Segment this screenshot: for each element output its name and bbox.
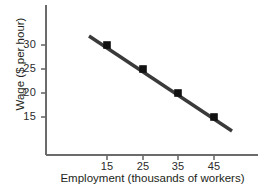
x-tick-label-35: 35 — [166, 160, 190, 172]
x-axis-title: Employment (thousands of workers) — [44, 172, 261, 184]
y-axis-title: Wage ($ per hour) — [14, 4, 26, 124]
labor-demand-chart: 30 25 20 15 15 25 35 45 Employment (thou… — [0, 0, 261, 193]
x-tick-label-15: 15 — [95, 160, 119, 172]
data-point-marker — [103, 41, 111, 49]
data-point-marker — [210, 113, 218, 121]
x-tick-label-45: 45 — [202, 160, 226, 172]
data-point-marker — [174, 89, 182, 97]
x-tick-label-25: 25 — [131, 160, 155, 172]
data-point-marker — [139, 65, 147, 73]
